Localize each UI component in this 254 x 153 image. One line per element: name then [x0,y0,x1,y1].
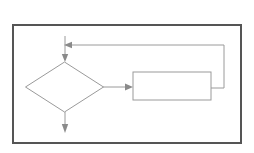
flowchart-canvas [0,0,254,153]
process-rectangle[interactable] [133,72,211,100]
diagram-root [0,0,254,153]
